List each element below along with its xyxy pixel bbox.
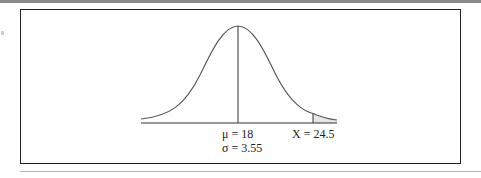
sd-label: σ = 3.55 <box>222 141 262 155</box>
bottom-rule <box>20 171 481 172</box>
mean-label: μ = 18 <box>222 127 253 141</box>
x-value-label: X = 24.5 <box>292 127 334 141</box>
normal-curve-figure: μ = 18 σ = 3.55 X = 24.5 <box>0 0 481 178</box>
bell-curve <box>141 26 337 120</box>
